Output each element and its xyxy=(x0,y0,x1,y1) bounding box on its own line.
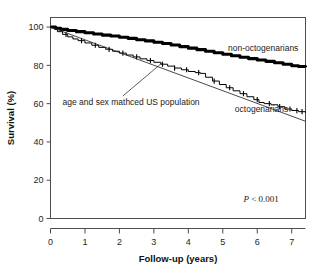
y-tick-label: 20 xyxy=(33,175,43,185)
x-tick-label: 7 xyxy=(289,237,294,247)
x-tick-label: 4 xyxy=(186,237,191,247)
us-population-label: age and sex mathced US population xyxy=(63,97,200,107)
x-tick-label: 2 xyxy=(117,237,122,247)
x-tick-label: 0 xyxy=(48,237,53,247)
survival-chart-figure: 020406080100 01234567 non-octogenarianso… xyxy=(0,0,325,273)
x-tick-label: 3 xyxy=(151,237,156,247)
octogenarians-label: octogenarians xyxy=(235,104,288,114)
y-axis-title: Survival (%) xyxy=(5,91,16,145)
non-octogenarians-label: non-octogenarians xyxy=(228,43,298,53)
y-tick-label: 60 xyxy=(33,99,43,109)
y-tick-label: 40 xyxy=(33,137,43,147)
x-tick-label: 5 xyxy=(220,237,225,247)
y-tick-label: 100 xyxy=(28,22,43,32)
x-axis-title: Follow-up (years) xyxy=(139,253,218,264)
y-tick-label: 0 xyxy=(38,214,43,224)
x-tick-label: 6 xyxy=(255,237,260,247)
p-value-annotation: P < 0.001 xyxy=(242,194,278,204)
y-tick-label: 80 xyxy=(33,61,43,71)
x-tick-label: 1 xyxy=(82,237,87,247)
chart-canvas: 020406080100 01234567 non-octogenarianso… xyxy=(0,0,325,273)
